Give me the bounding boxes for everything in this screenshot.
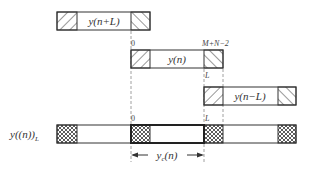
tick-L-bottom: L [204, 114, 210, 123]
tick-end-top: M+N−2 [201, 39, 229, 48]
sequence-original: y(n) [131, 50, 223, 68]
result-bar [57, 125, 296, 143]
hatch-right [204, 50, 223, 68]
tick-zero-bottom: 0 [131, 114, 135, 123]
hatch-right [278, 87, 296, 105]
crosshatch-1 [57, 125, 77, 143]
span-arrow: yc(n) [131, 149, 204, 163]
label-y-n: y(n) [167, 53, 186, 66]
tick-L-mid: L [204, 71, 210, 80]
crosshatch-3 [204, 125, 223, 143]
sequence-shift-plus: y(n+L) [57, 12, 150, 30]
crosshatch-4 [278, 125, 296, 143]
label-y-n-minus-L: y(n−L) [233, 90, 266, 103]
hatch-left [204, 87, 223, 105]
hatch-left [57, 12, 77, 30]
label-y-n-plus-L: y(n+L) [87, 15, 120, 28]
crosshatch-2 [131, 125, 150, 143]
label-result: y((n))L [9, 128, 39, 143]
tick-zero-top: 0 [131, 39, 135, 48]
label-yc-n: yc(n) [156, 149, 178, 163]
aliasing-diagram: y(n+L) 0 M+N−2 y(n) L y(n−L) 0 L y((n))L… [0, 0, 311, 170]
sequence-shift-minus: y(n−L) [204, 87, 296, 105]
hatch-left [131, 50, 150, 68]
hatch-right [131, 12, 150, 30]
